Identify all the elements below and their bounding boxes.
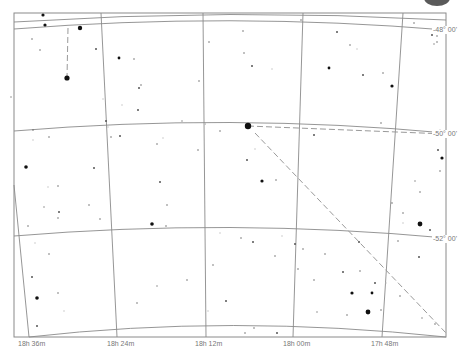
star: [36, 325, 38, 327]
star: [313, 279, 314, 280]
star: [156, 285, 158, 287]
star: [421, 317, 423, 319]
star: [302, 248, 303, 249]
ra-label: 18h 24m: [107, 340, 134, 348]
star: [156, 143, 157, 144]
star: [138, 87, 140, 89]
constellation-lines: [67, 28, 446, 333]
star: [251, 65, 253, 67]
star: [57, 292, 58, 293]
star: [140, 84, 141, 85]
star: [207, 310, 208, 311]
star: [414, 180, 416, 182]
dec-grid-lines: [14, 14, 446, 337]
star: [429, 229, 431, 231]
star: [10, 96, 12, 98]
star: [137, 109, 139, 111]
bright-star: [41, 13, 44, 16]
bright-stars: [24, 13, 443, 314]
star: [162, 137, 163, 138]
bright-star: [390, 84, 393, 87]
star: [57, 185, 58, 186]
star: [436, 35, 437, 36]
star: [186, 279, 187, 280]
star: [166, 204, 167, 205]
star: [219, 130, 220, 131]
star: [121, 104, 122, 105]
star: [32, 129, 33, 130]
star: [437, 149, 439, 151]
star: [418, 256, 420, 258]
dec-label: -52° 00': [432, 235, 458, 243]
ra-label: 18h 36m: [18, 340, 45, 348]
ra-17h48m: [382, 13, 403, 337]
star: [300, 19, 301, 20]
star: [197, 149, 198, 150]
bright-star: [440, 156, 443, 159]
star-chart: [0, 0, 458, 354]
bright-star: [64, 75, 69, 80]
star: [413, 22, 414, 23]
star: [336, 31, 338, 33]
star: [419, 191, 420, 192]
star: [47, 186, 48, 187]
star: [402, 222, 403, 223]
star: [27, 225, 28, 226]
bright-star: [350, 291, 353, 294]
star: [274, 255, 275, 256]
star: [397, 240, 398, 241]
star: [32, 139, 33, 140]
star: [297, 268, 298, 269]
star: [271, 68, 272, 69]
star: [358, 241, 360, 243]
star: [254, 148, 255, 149]
star: [402, 212, 403, 213]
dec-50: [14, 122, 446, 133]
star: [362, 74, 364, 76]
star: [324, 253, 325, 254]
star: [34, 242, 35, 243]
star: [181, 120, 183, 122]
bright-star: [328, 67, 331, 70]
chart-frame: [14, 13, 446, 337]
bright-star: [24, 165, 28, 169]
star: [439, 170, 440, 171]
star: [294, 243, 296, 245]
bright-star: [418, 222, 423, 227]
bright-star: [35, 296, 39, 300]
star: [391, 202, 392, 203]
ra-18h12m: [203, 13, 206, 337]
bright-star: [245, 123, 251, 129]
star: [342, 271, 344, 273]
star: [380, 309, 381, 310]
star: [253, 327, 254, 328]
star: [244, 332, 245, 333]
star: [433, 43, 435, 45]
dec-label: -48° 00': [432, 26, 458, 34]
star: [275, 179, 276, 180]
star: [313, 134, 315, 136]
star: [48, 253, 49, 254]
star: [208, 41, 209, 42]
star: [88, 204, 89, 205]
star: [242, 30, 243, 31]
star: [95, 48, 97, 50]
star: [349, 44, 350, 45]
star: [110, 136, 111, 137]
star: [165, 225, 166, 226]
ra-label: 18h 00m: [283, 340, 310, 348]
star: [99, 218, 100, 219]
ra-grid-lines: [14, 13, 403, 337]
star: [198, 80, 199, 81]
bright-star: [150, 222, 154, 226]
star: [159, 181, 161, 183]
star: [93, 167, 95, 169]
ra-18h36m: [14, 185, 29, 337]
dec-bottom: [29, 326, 446, 338]
star: [225, 300, 227, 302]
star: [374, 282, 376, 284]
star: [356, 48, 357, 49]
star: [219, 232, 220, 233]
star: [102, 98, 103, 99]
star: [105, 120, 107, 122]
